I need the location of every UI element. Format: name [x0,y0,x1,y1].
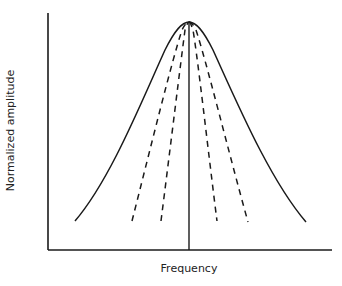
x-axis-label: Frequency [0,262,342,275]
dashed-curve-outer-left [132,22,189,221]
y-axis-label: Normalized amplitude [4,61,17,201]
wide-solid-curve [75,22,306,222]
dashed-curve-outer-right [189,22,248,222]
dashed-curve-inner-left [161,22,189,221]
bell-curve-diagram [0,0,342,286]
